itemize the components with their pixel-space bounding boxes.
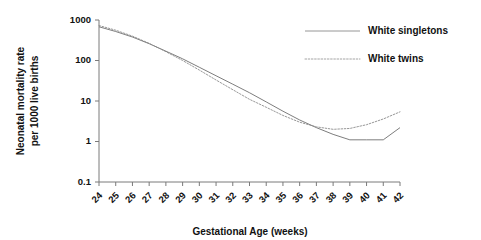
legend: White singletons White twins [305, 25, 448, 64]
x-tick-label: 26 [123, 190, 138, 205]
x-tick-label: 30 [189, 190, 204, 205]
x-tick-label: 37 [307, 190, 322, 205]
x-tick-label: 36 [290, 190, 305, 205]
y-tick-label: 1000 [70, 14, 91, 25]
x-tick-label: 42 [390, 190, 405, 205]
y-axis-title-line1: Neonatal mortality rate [15, 46, 26, 155]
x-axis-group: 24252627282930313233343536373839404142 [89, 182, 405, 205]
legend-label-twins: White twins [368, 53, 424, 64]
y-tick-label: 0.1 [78, 176, 92, 187]
x-axis-title: Gestational Age (weeks) [192, 226, 307, 237]
x-tick-label: 34 [256, 189, 272, 205]
x-tick-label: 28 [156, 190, 171, 205]
x-tick-label: 27 [139, 190, 154, 205]
y-tick-label: 10 [80, 95, 91, 106]
x-tick-label: 39 [340, 190, 355, 205]
x-tick-label: 35 [273, 189, 289, 205]
x-tick-label: 38 [323, 190, 338, 205]
x-tick-group: 24252627282930313233343536373839404142 [89, 182, 405, 205]
series-line-white-singletons [99, 27, 400, 140]
x-tick-label: 33 [240, 190, 255, 205]
x-tick-label: 31 [206, 189, 222, 205]
x-tick-label: 29 [173, 190, 188, 205]
x-tick-label: 24 [89, 189, 105, 205]
chart-canvas: 10001001010.1 24252627282930313233343536… [0, 0, 481, 240]
y-tick-label: 1 [86, 135, 92, 146]
x-tick-label: 41 [373, 189, 389, 205]
x-tick-label: 32 [223, 190, 238, 205]
neonatal-mortality-chart: 10001001010.1 24252627282930313233343536… [0, 0, 481, 240]
x-tick-label: 25 [106, 189, 122, 205]
legend-label-singletons: White singletons [368, 25, 448, 36]
x-tick-label: 40 [357, 190, 372, 205]
y-tick-group: 10001001010.1 [70, 14, 99, 187]
y-tick-label: 100 [75, 54, 91, 65]
y-axis-title-line2: per 1000 live births [29, 55, 40, 146]
series-group [99, 26, 400, 140]
series-line-white-twins [99, 26, 400, 130]
y-axis-group: 10001001010.1 [70, 14, 99, 187]
